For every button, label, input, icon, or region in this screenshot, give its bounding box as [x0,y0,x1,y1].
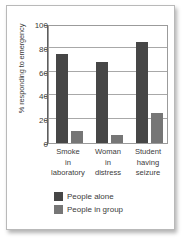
x-category-label-line: distress [88,168,128,179]
x-category-label-line: Smoke [48,147,88,158]
bar-alone-2 [136,42,148,143]
x-category-label-line: in [88,158,128,169]
x-category-label-1: Womanindistress [88,147,128,185]
legend-swatch-icon [54,205,63,214]
chart-legend: People alonePeople in group [54,190,164,216]
x-axis-category-labels: SmokeinlaboratoryWomanindistressStudenth… [48,147,168,185]
x-category-label-2: Studenthavingseizure [128,147,168,185]
plot-area [48,25,168,144]
legend-item-1: People in group [54,203,164,215]
figure-card: % responding to emergency 020406080100 S… [6,5,175,230]
x-category-label-0: Smokeinlaboratory [48,147,88,185]
legend-label: People alone [67,192,114,201]
x-category-label-line: in [48,158,88,169]
legend-swatch-icon [54,192,63,201]
legend-label: People in group [67,205,123,214]
bar-chart: % responding to emergency 020406080100 S… [7,6,176,231]
bar-alone-1 [96,62,108,143]
bar-group-2 [151,113,163,143]
x-category-label-line: having [128,158,168,169]
gridline-80 [49,47,167,48]
bar-group-1 [111,135,123,143]
x-category-label-line: seizure [128,168,168,179]
y-axis-tick-group: 020406080100 [19,25,48,144]
bar-alone-0 [56,54,68,143]
bar-group-0 [71,131,83,143]
x-category-label-line: Student [128,147,168,158]
x-category-label-line: Woman [88,147,128,158]
x-category-label-line: laboratory [48,168,88,179]
legend-item-0: People alone [54,190,164,202]
